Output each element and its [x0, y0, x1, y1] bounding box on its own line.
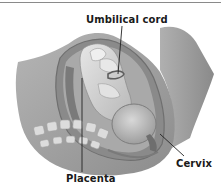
label-umbilical-cord: Umbilical cord	[86, 14, 168, 25]
label-cervix: Cervix	[176, 158, 212, 169]
anatomy-figure: Umbilical cord Placenta Cervix	[0, 0, 221, 188]
label-placenta: Placenta	[66, 173, 116, 184]
